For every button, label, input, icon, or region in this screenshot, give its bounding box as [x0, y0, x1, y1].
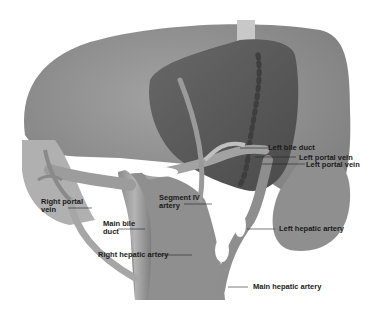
label-segment-iv-artery: Segment IV artery	[159, 194, 200, 210]
label-left-hepatic-artery: Left hepatic artery	[279, 225, 344, 233]
label-main-bile-duct-line2: duct	[103, 228, 135, 236]
gap-1	[234, 213, 246, 237]
vena-cava	[237, 20, 255, 42]
label-left-portal-vein-2: Left portal vein	[306, 161, 360, 169]
label-segment-iv-line2: artery	[159, 202, 200, 210]
label-left-bile-duct: Left bile duct	[268, 144, 315, 152]
label-main-hepatic-artery: Main hepatic artery	[253, 283, 321, 291]
label-main-bile-duct: Main bile duct	[103, 220, 135, 236]
label-right-hepatic-artery: Right hepatic artery	[98, 251, 168, 259]
gap-2	[215, 238, 229, 262]
liver-anatomy-diagram: Left bile duct Left portal vein Left por…	[0, 0, 373, 317]
label-right-portal-vein-line2: vein	[41, 206, 83, 214]
label-right-portal-vein: Right portal vein	[41, 198, 83, 214]
gap-3	[142, 167, 178, 177]
